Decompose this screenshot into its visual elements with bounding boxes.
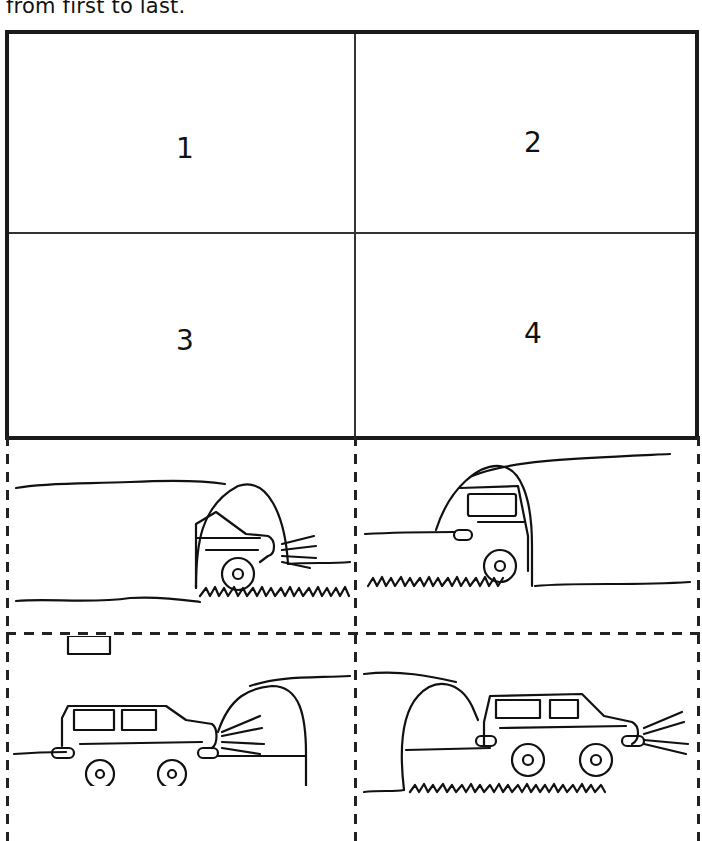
- grid-divider-horizontal: [9, 232, 695, 234]
- cut-line-center: [354, 436, 357, 841]
- sequence-box-1[interactable]: 1: [155, 132, 215, 165]
- cut-line-left: [6, 436, 9, 841]
- grid-divider-vertical: [354, 34, 356, 436]
- cut-out-area: [0, 436, 702, 841]
- picture-car-approaching-tunnel[interactable]: [10, 636, 352, 786]
- picture-car-front-tunnel[interactable]: [10, 436, 352, 626]
- instruction-text: from first to last.: [6, 0, 185, 18]
- picture-car-exiting-tunnel[interactable]: [360, 636, 696, 796]
- cut-line-middle: [6, 632, 700, 635]
- sequence-box-2[interactable]: 2: [503, 126, 563, 159]
- sequence-box-3[interactable]: 3: [155, 324, 215, 357]
- cut-line-right: [697, 436, 700, 841]
- sequence-box-4[interactable]: 4: [503, 317, 563, 350]
- picture-car-rear-tunnel[interactable]: [360, 436, 696, 626]
- sequence-grid: 1 2 3 4: [5, 30, 699, 440]
